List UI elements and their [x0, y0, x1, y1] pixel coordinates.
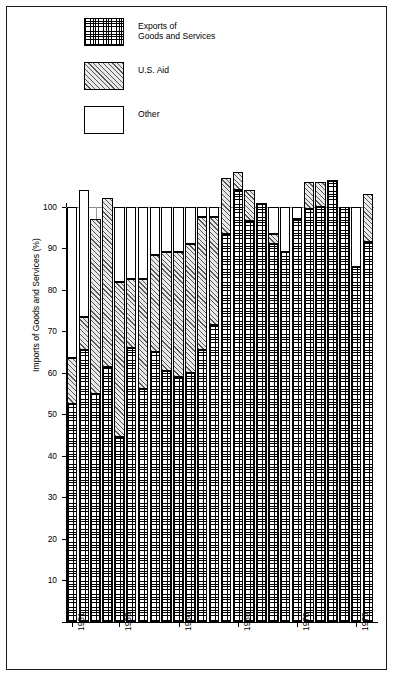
- bar-segment-exports: [138, 389, 148, 622]
- bar-1976: [363, 194, 373, 622]
- bar-segment-other: [114, 207, 124, 282]
- y-tick-label: 30: [33, 492, 57, 502]
- bar-segment-aid: [185, 244, 195, 373]
- bar-1951: [67, 207, 77, 622]
- bar-1956: [126, 207, 136, 622]
- chart-plot-area: Imports of Goods and Services (%) 102030…: [0, 0, 395, 678]
- bar-1952: [79, 190, 89, 622]
- y-tick-mark: [62, 290, 66, 291]
- x-tick-label: 1975: [360, 612, 370, 631]
- bar-segment-exports: [209, 325, 219, 622]
- bar-1968: [268, 207, 278, 622]
- bar-1967: [256, 203, 266, 622]
- bar-segment-other: [126, 207, 136, 280]
- y-tick-label: 50: [33, 409, 57, 419]
- y-tick-label: 90: [33, 243, 57, 253]
- bar-1974: [339, 207, 349, 622]
- bar-segment-exports: [150, 352, 160, 622]
- bar-segment-other: [79, 190, 89, 317]
- bar-segment-exports: [339, 207, 349, 622]
- y-tick-label: 70: [33, 326, 57, 336]
- bar-segment-aid: [150, 255, 160, 353]
- bar-segment-exports: [351, 267, 361, 622]
- bar-1975: [351, 207, 361, 622]
- x-tick-mark: [119, 623, 120, 627]
- bar-1955: [114, 207, 124, 622]
- bar-segment-aid: [363, 194, 373, 242]
- bar-1973: [327, 180, 337, 622]
- bar-segment-other: [197, 207, 207, 217]
- x-tick-label: 1970: [301, 612, 311, 631]
- bar-segment-exports: [79, 350, 89, 622]
- bar-segment-exports: [126, 348, 136, 622]
- x-axis-line: [62, 622, 378, 623]
- bar-segment-aid: [221, 178, 231, 234]
- bar-segment-exports: [280, 252, 290, 622]
- bar-segment-exports: [327, 180, 337, 622]
- bar-segment-exports: [233, 190, 243, 622]
- bar-segment-aid: [90, 219, 100, 393]
- bar-1958: [150, 207, 160, 622]
- bar-1962: [197, 207, 207, 622]
- bar-segment-other: [67, 207, 77, 359]
- bar-1969: [280, 207, 290, 622]
- bar-segment-other: [150, 207, 160, 255]
- bar-segment-other: [209, 207, 219, 217]
- x-tick-mark: [356, 623, 357, 627]
- bar-segment-other: [138, 207, 148, 280]
- vertical-gridline: [96, 207, 97, 219]
- x-tick-mark: [238, 623, 239, 627]
- x-tick-mark: [179, 623, 180, 627]
- bar-1963: [209, 207, 219, 622]
- bar-segment-other: [173, 207, 183, 253]
- y-tick-label: 80: [33, 285, 57, 295]
- bar-segment-exports: [161, 371, 171, 622]
- x-tick-label: 1960: [183, 612, 193, 631]
- x-tick-label: 1955: [123, 612, 133, 631]
- bar-segment-other: [185, 207, 195, 244]
- bar-1965: [233, 172, 243, 622]
- bar-segment-other: [161, 207, 171, 253]
- bar-segment-exports: [292, 219, 302, 622]
- bar-1953: [90, 219, 100, 622]
- bar-segment-aid: [244, 190, 254, 221]
- bar-segment-exports: [102, 367, 112, 622]
- y-tick-mark: [62, 456, 66, 457]
- bar-segment-aid: [173, 252, 183, 377]
- bar-1961: [185, 207, 195, 622]
- y-tick-label: 60: [33, 368, 57, 378]
- x-tick-mark: [72, 623, 73, 627]
- bar-segment-exports: [304, 209, 314, 622]
- y-tick-mark: [62, 580, 66, 581]
- x-tick-label: 1951: [76, 612, 86, 631]
- bar-1954: [102, 198, 112, 622]
- bar-segment-aid: [304, 182, 314, 209]
- bar-segment-aid: [209, 217, 219, 325]
- y-tick-mark: [62, 373, 66, 374]
- y-tick-label: 100: [33, 202, 57, 212]
- bar-segment-aid: [126, 279, 136, 348]
- bar-segment-exports: [315, 207, 325, 622]
- bar-segment-other: [292, 207, 302, 219]
- bar-segment-exports: [173, 377, 183, 622]
- y-tick-label: 40: [33, 451, 57, 461]
- bar-segment-exports: [197, 350, 207, 622]
- y-tick-mark: [62, 248, 66, 249]
- y-tick-mark: [62, 414, 66, 415]
- bar-segment-exports: [185, 373, 195, 622]
- bar-segment-exports: [268, 244, 278, 622]
- bar-1972: [315, 182, 325, 622]
- bar-1966: [244, 190, 254, 622]
- bar-segment-exports: [244, 221, 254, 622]
- bar-segment-aid: [197, 217, 207, 350]
- bar-segment-aid: [268, 234, 278, 244]
- bar-1970: [292, 207, 302, 622]
- bar-segment-aid: [114, 282, 124, 438]
- y-tick-mark: [62, 497, 66, 498]
- y-tick-mark: [62, 539, 66, 540]
- bar-segment-aid: [67, 358, 77, 404]
- bar-segment-exports: [256, 203, 266, 622]
- y-tick-label: 10: [33, 575, 57, 585]
- bar-segment-other: [268, 207, 278, 234]
- y-tick-mark: [62, 331, 66, 332]
